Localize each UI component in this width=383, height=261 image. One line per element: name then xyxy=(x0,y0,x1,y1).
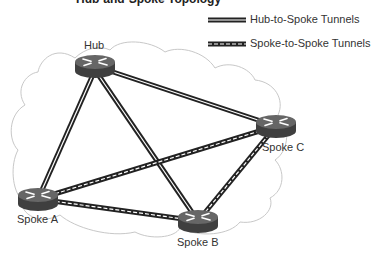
router-spoke-a-icon[interactable] xyxy=(18,188,58,211)
router-hub-icon[interactable] xyxy=(75,55,115,78)
spoke-to-spoke-tunnels xyxy=(38,126,276,221)
node-label-spoke-c: Spoke C xyxy=(262,141,304,153)
node-label-spoke-a: Spoke A xyxy=(17,213,58,225)
legend-hub-to-spoke-label: Hub-to-Spoke Tunnels xyxy=(250,13,359,25)
node-label-hub: Hub xyxy=(84,39,104,51)
hub-to-spoke-tunnels xyxy=(38,66,276,221)
node-label-spoke-b: Spoke B xyxy=(177,236,219,248)
router-spoke-c-icon[interactable] xyxy=(256,115,296,138)
legend-spoke-to-spoke-label: Spoke-to-Spoke Tunnels xyxy=(250,37,370,49)
router-spoke-b-icon[interactable] xyxy=(178,210,218,233)
